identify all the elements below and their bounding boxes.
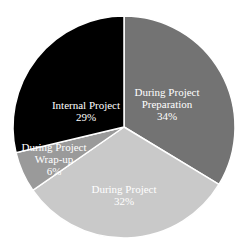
pie-chart: During ProjectPreparation34%During Proje… [0, 0, 247, 252]
pie-chart-svg: During ProjectPreparation34%During Proje… [0, 0, 247, 252]
